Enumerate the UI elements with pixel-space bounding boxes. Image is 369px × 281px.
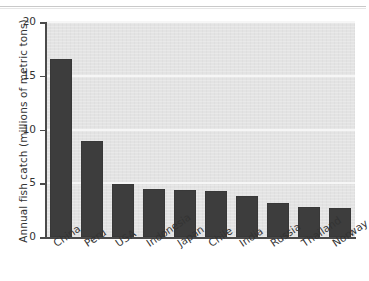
y-tick-label-20: 20 <box>8 15 36 27</box>
y-tick-mark-15 <box>40 76 46 78</box>
y-tick-mark-5 <box>40 183 46 185</box>
bar-peru <box>81 141 103 237</box>
y-tick-mark-20 <box>40 22 46 24</box>
plot-area <box>46 22 355 237</box>
y-tick-mark-10 <box>40 130 46 132</box>
y-tick-label-5: 5 <box>8 176 36 188</box>
gridline-20 <box>46 21 355 23</box>
y-tick-label-15: 15 <box>8 69 36 81</box>
x-axis-labels: ChinaPeruUSAIndonesiaJapanChileIndiaRuss… <box>0 239 366 281</box>
gridline-10 <box>46 129 355 131</box>
gridline-15 <box>46 75 355 77</box>
bar-china <box>50 59 72 237</box>
y-tick-label-10: 10 <box>8 123 36 135</box>
